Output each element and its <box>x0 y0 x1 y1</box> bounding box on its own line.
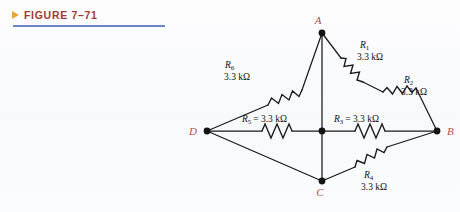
resistor-R1-value: 3.3 kΩ <box>357 52 383 62</box>
resistor-R6-zigzag <box>268 90 302 105</box>
svg-text:R6: R6 <box>224 60 235 71</box>
wire-D-to-C <box>207 131 322 181</box>
resistor-R3-subscript: 3 <box>340 118 344 125</box>
resistor-label-R1: R1 3.3 kΩ <box>357 40 383 62</box>
node-dot-A <box>319 30 326 37</box>
node-dot-C <box>319 178 326 185</box>
resistor-R2-subscript: 2 <box>410 79 414 86</box>
resistor-R5 <box>262 124 292 138</box>
resistor-label-R6: R6 3.3 kΩ <box>224 60 250 82</box>
svg-text:R2: R2 <box>403 75 414 86</box>
svg-text:R4: R4 <box>363 170 374 181</box>
node-label-C: C <box>316 186 324 198</box>
node-label-A: A <box>314 14 322 26</box>
node-dot-D <box>204 128 211 135</box>
resistor-R4-subscript: 4 <box>370 174 374 181</box>
resistor-R6 <box>268 90 302 105</box>
resistor-R1-subscript: 1 <box>366 44 369 51</box>
resistor-label-R5: R5= 3.3 kΩ <box>241 114 287 125</box>
resistor-R4-zigzag <box>355 147 387 167</box>
resistor-R3-value: = 3.3 kΩ <box>345 114 379 124</box>
node-label-D: D <box>188 125 197 137</box>
resistor-R5-subscript: 5 <box>248 118 252 125</box>
resistor-R4 <box>355 147 387 167</box>
wire-R6-to-A <box>302 33 322 90</box>
svg-text:R3= 3.3 kΩ: R3= 3.3 kΩ <box>333 114 379 125</box>
circuit-diagram: A B C D R6 3.3 kΩ R1 3.3 kΩ R2 3.3 kΩ <box>0 0 460 212</box>
resistor-R6-subscript: 6 <box>231 64 235 71</box>
node-dot-center <box>319 128 326 135</box>
wire-R4-to-B <box>387 131 437 147</box>
resistor-R3-zigzag <box>355 124 385 138</box>
node-dot-B <box>434 128 441 135</box>
wire-C-to-R4 <box>322 167 355 181</box>
resistor-R6-value: 3.3 kΩ <box>224 72 250 82</box>
figure-page: FIGURE 7–71 <box>0 0 460 212</box>
resistor-R2-value: 3.3 kΩ <box>401 87 427 97</box>
resistor-label-R4: R4 3.3 kΩ <box>361 170 387 192</box>
node-label-B: B <box>447 125 454 137</box>
resistor-R3 <box>355 124 385 138</box>
svg-text:R1: R1 <box>359 40 369 51</box>
resistor-label-R3: R3= 3.3 kΩ <box>333 114 379 125</box>
wire-A-to-R1 <box>322 33 341 58</box>
svg-text:R5= 3.3 kΩ: R5= 3.3 kΩ <box>241 114 287 125</box>
resistor-label-R2: R2 3.3 kΩ <box>401 75 427 97</box>
resistor-R5-zigzag <box>262 124 292 138</box>
resistor-R5-value: = 3.3 kΩ <box>253 114 287 124</box>
resistor-R4-value: 3.3 kΩ <box>361 182 387 192</box>
wire-R1-to-mid <box>363 82 383 92</box>
